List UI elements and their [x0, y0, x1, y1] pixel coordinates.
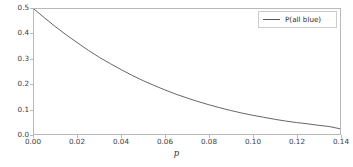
x-tick-mark [341, 135, 342, 138]
x-axis-label: p [0, 148, 353, 158]
x-tick-label: 0.12 [277, 138, 317, 146]
x-tick-label: 0.04 [101, 138, 141, 146]
x-tick-mark [77, 135, 78, 138]
chart-figure: 0.00.10.20.30.40.5 0.000.020.040.060.080… [0, 0, 353, 167]
x-tick-mark [165, 135, 166, 138]
x-tick-mark [253, 135, 254, 138]
y-tick-label: 0.3 [0, 55, 29, 63]
y-tick-label: 0.1 [0, 106, 29, 114]
x-tick-mark [121, 135, 122, 138]
y-tick-label: 0.4 [0, 29, 29, 37]
x-tick-label: 0.08 [189, 138, 229, 146]
x-tick-mark [209, 135, 210, 138]
chart-legend: P(all blue) [258, 11, 337, 28]
x-tick-label: 0.02 [57, 138, 97, 146]
x-tick-mark [297, 135, 298, 138]
x-tick-label: 0.10 [233, 138, 273, 146]
legend-label-p-all-blue: P(all blue) [285, 15, 321, 24]
x-tick-label: 0.14 [321, 138, 353, 146]
y-tick-label: 0.2 [0, 80, 29, 88]
x-tick-label: 0.06 [145, 138, 185, 146]
x-tick-label: 0.00 [13, 138, 53, 146]
legend-line-sample [263, 19, 280, 20]
y-tick-label: 0.5 [0, 4, 29, 12]
x-tick-mark [33, 135, 34, 138]
